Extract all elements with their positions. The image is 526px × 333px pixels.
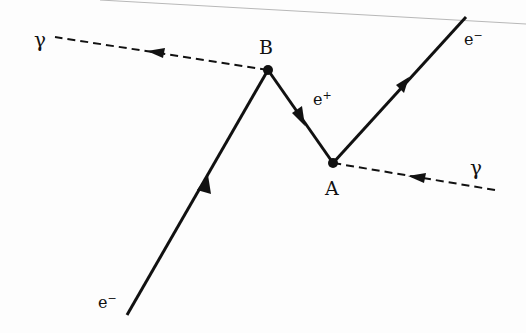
gamma-left-label: γ [34,30,46,50]
vertex-a-label: A [325,179,339,198]
feynman-diagram: γ B e+ e− A γ e− [0,0,526,333]
positron-label: e+ [313,90,332,108]
photon-in-arrow-icon [408,173,426,183]
vertex-b-dot [263,65,273,75]
gamma-right-label: γ [470,158,482,178]
electron-in-line [127,70,268,315]
vertex-b-label: B [259,38,273,57]
vertex-a-dot [328,158,338,168]
electron-in-label: e− [98,293,117,311]
electron-out-line [333,17,466,163]
photon-out-arrow-icon [147,48,165,58]
electron-out-label: e− [464,30,483,48]
